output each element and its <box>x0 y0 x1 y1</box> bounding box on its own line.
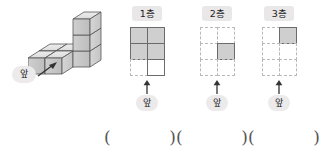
layer-1-cell-r1c1 <box>147 43 165 60</box>
layer-3-cell-r1c1 <box>279 43 297 60</box>
worksheet-page: 앞 1층 앞 2층 <box>0 0 323 156</box>
layer-3-cell-r0c0 <box>262 27 280 44</box>
answer-row: ( ) ( ) ( ) <box>0 122 323 152</box>
layer-3-cell-r2c0 <box>262 59 280 76</box>
layer-2-cell-r2c1 <box>217 59 235 76</box>
layer-2-title: 2층 <box>202 6 232 21</box>
layer-panel-3: 3층 앞 <box>248 6 310 114</box>
answer-blank-1[interactable]: ( ) <box>104 122 176 152</box>
answer-1-close-paren: ) <box>169 129 176 146</box>
layer-3-title: 3층 <box>264 6 294 21</box>
layer-2-cell-r1c0 <box>200 43 218 60</box>
layer-2-cell-r2c0 <box>200 59 218 76</box>
answer-2-close-paren: ) <box>241 129 248 146</box>
layer-panel-2: 2층 앞 <box>186 6 248 114</box>
layer-1-front-label: 앞 <box>136 95 158 111</box>
layer-3-cell-r2c1 <box>279 59 297 76</box>
answer-3-close-paren: ) <box>313 129 320 146</box>
answer-blank-3[interactable]: ( ) <box>248 122 320 152</box>
layer-2-front-label: 앞 <box>206 95 228 111</box>
layer-2-grid <box>200 27 234 75</box>
layer-1-cell-r2c0 <box>130 59 148 76</box>
layer-2-cell-r1c1 <box>217 43 235 60</box>
answer-blank-2[interactable]: ( ) <box>176 122 248 152</box>
layer-2-cell-r0c1 <box>217 27 235 44</box>
layer-1-cell-r2c1 <box>147 59 165 76</box>
answer-3-open-paren: ( <box>248 129 255 146</box>
layer-1-front-arrow-icon <box>141 80 153 94</box>
layer-3-cell-r1c0 <box>262 43 280 60</box>
layer-2-cell-r0c0 <box>200 27 218 44</box>
layer-3-grid <box>262 27 296 75</box>
layer-2-front-label-text: 앞 <box>213 99 221 108</box>
layer-panel-1: 1층 앞 <box>116 6 178 114</box>
layer-3-front-label-text: 앞 <box>275 99 283 108</box>
layer-1-cell-r1c0 <box>130 43 148 60</box>
front-direction-arrow-icon <box>36 60 60 80</box>
layer-3-front-arrow-icon <box>273 80 285 94</box>
layer-1-cell-r0c1 <box>147 27 165 44</box>
layer-1-grid <box>130 27 164 75</box>
answer-1-open-paren: ( <box>104 129 111 146</box>
layer-3-cell-r0c1 <box>279 27 297 44</box>
layer-2-front-arrow-icon <box>211 80 223 94</box>
layer-3-front-label: 앞 <box>268 95 290 111</box>
front-label-solid-text: 앞 <box>20 70 28 79</box>
layer-1-front-label-text: 앞 <box>143 99 151 108</box>
front-label-solid: 앞 <box>12 66 36 83</box>
answer-2-open-paren: ( <box>176 129 183 146</box>
layer-1-title: 1층 <box>132 6 162 21</box>
layer-1-cell-r0c0 <box>130 27 148 44</box>
